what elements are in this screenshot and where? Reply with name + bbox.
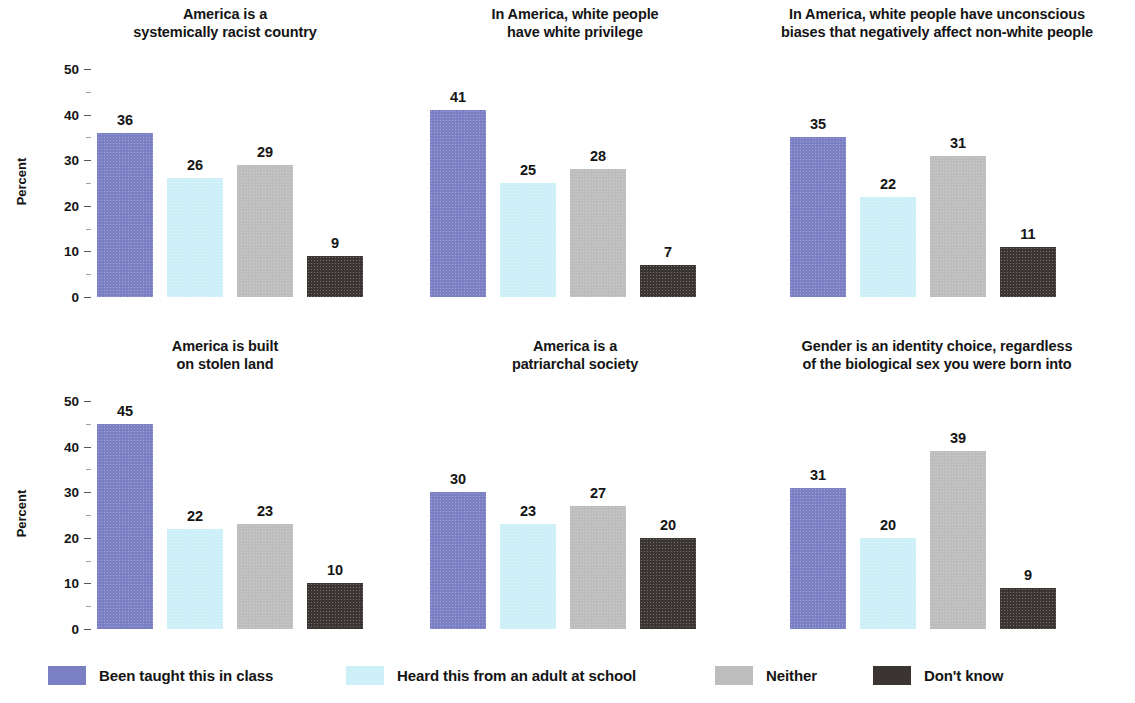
y-tick-mark <box>84 69 91 70</box>
y-tick-mark <box>84 115 91 116</box>
bar-texture <box>790 488 846 629</box>
bar-texture <box>860 197 916 297</box>
bar-texture <box>430 492 486 629</box>
y-tick-label: 40 <box>45 439 79 454</box>
bar: 26 <box>167 178 223 297</box>
bar: 28 <box>570 169 626 297</box>
legend-item-1: Been taught this in class <box>48 666 273 685</box>
bar: 7 <box>640 265 696 297</box>
panel-title-3: In America, white people have unconsciou… <box>742 6 1132 41</box>
y-tick-label: 50 <box>45 62 79 77</box>
y-tick-label: 20 <box>45 198 79 213</box>
y-axis-title: Percent <box>14 454 29 574</box>
bar-value-label: 35 <box>810 116 826 132</box>
plot-area-2: 4125287 <box>430 69 698 297</box>
bar-texture <box>430 110 486 297</box>
panel-title-5: America is a patriarchal society <box>410 338 740 373</box>
y-tick-mark <box>84 538 91 539</box>
chart-legend: Been taught this in classHeard this from… <box>0 660 1135 700</box>
panel-title-6: Gender is an identity choice, regardless… <box>742 338 1132 373</box>
y-tick-label: 10 <box>45 576 79 591</box>
bar: 23 <box>500 524 556 629</box>
bar-texture <box>1000 588 1056 629</box>
bar-value-label: 36 <box>117 112 133 128</box>
legend-swatch-1 <box>48 666 86 685</box>
bar-texture <box>237 524 293 629</box>
y-tick-mark <box>84 492 91 493</box>
bar-value-label: 28 <box>590 148 606 164</box>
bar: 31 <box>930 156 986 297</box>
plot-area-6: 3120399 <box>790 401 1058 629</box>
y-minor-tick-mark <box>86 229 91 230</box>
y-axis-row-1: 01020304050Percent <box>0 0 97 703</box>
y-minor-tick-mark <box>86 515 91 516</box>
y-tick-mark <box>84 583 91 584</box>
y-tick-label: 30 <box>45 485 79 500</box>
bar-texture <box>500 524 556 629</box>
bar-texture <box>1000 247 1056 297</box>
bar-value-label: 45 <box>117 403 133 419</box>
bar: 22 <box>167 529 223 629</box>
legend-item-4: Don't know <box>873 666 1003 685</box>
bar-value-label: 9 <box>331 235 339 251</box>
bar: 35 <box>790 137 846 297</box>
y-tick-label: 0 <box>45 622 79 637</box>
bar: 45 <box>97 424 153 629</box>
bar-texture <box>97 133 153 297</box>
bar-texture <box>640 265 696 297</box>
legend-item-3: Neither <box>715 666 817 685</box>
legend-swatch-2 <box>346 666 384 685</box>
bar-value-label: 10 <box>327 562 343 578</box>
bar-value-label: 29 <box>257 144 273 160</box>
bar-texture <box>167 529 223 629</box>
bar-value-label: 26 <box>187 157 203 173</box>
bar-value-label: 23 <box>520 503 536 519</box>
bar-texture <box>500 183 556 297</box>
y-tick-mark <box>84 206 91 207</box>
bar: 20 <box>640 538 696 629</box>
chart-panel-2: In America, white people have white priv… <box>0 0 1135 703</box>
chart-panel-5: America is a patriarchal society30232720 <box>0 0 1135 703</box>
y-minor-tick-mark <box>86 92 91 93</box>
chart-panel-1: America is a systemically racist country… <box>0 0 1135 703</box>
bar-value-label: 27 <box>590 485 606 501</box>
y-minor-tick-mark <box>86 183 91 184</box>
bar-texture <box>307 583 363 629</box>
y-tick-label: 0 <box>45 290 79 305</box>
bar: 9 <box>1000 588 1056 629</box>
bar-texture <box>930 156 986 297</box>
legend-label-3: Neither <box>766 667 817 684</box>
bar-value-label: 39 <box>950 430 966 446</box>
panel-title-4: America is built on stolen land <box>60 338 390 373</box>
bar: 31 <box>790 488 846 629</box>
bar-texture <box>790 137 846 297</box>
bar: 22 <box>860 197 916 297</box>
y-tick-label: 20 <box>45 530 79 545</box>
bar: 25 <box>500 183 556 297</box>
y-minor-tick-mark <box>86 424 91 425</box>
bar: 9 <box>307 256 363 297</box>
y-tick-mark <box>84 401 91 402</box>
bar-texture <box>930 451 986 629</box>
legend-label-4: Don't know <box>924 667 1003 684</box>
bar: 10 <box>307 583 363 629</box>
legend-swatch-4 <box>873 666 911 685</box>
bar: 11 <box>1000 247 1056 297</box>
bar-value-label: 11 <box>1020 226 1035 242</box>
bar-texture <box>237 165 293 297</box>
bar-texture <box>570 169 626 297</box>
bar: 30 <box>430 492 486 629</box>
bar-value-label: 25 <box>520 162 536 178</box>
legend-label-2: Heard this from an adult at school <box>397 667 636 684</box>
chart-panel-4: America is built on stolen land010203040… <box>0 0 1135 703</box>
y-tick-label: 30 <box>45 153 79 168</box>
bar-value-label: 9 <box>1024 567 1032 583</box>
plot-area-5: 30232720 <box>430 401 698 629</box>
y-minor-tick-mark <box>86 469 91 470</box>
y-tick-mark <box>84 297 91 298</box>
chart-panel-3: In America, white people have unconsciou… <box>0 0 1135 703</box>
bar-value-label: 22 <box>187 508 203 524</box>
y-tick-label: 10 <box>45 244 79 259</box>
bar-value-label: 7 <box>664 244 672 260</box>
y-minor-tick-mark <box>86 274 91 275</box>
